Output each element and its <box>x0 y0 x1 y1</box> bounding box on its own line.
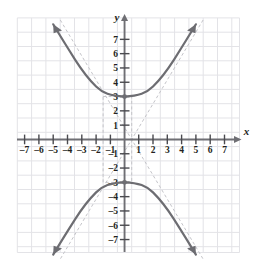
coordinate-plane-svg: –7 –6 –5 –4 –3 –2 –1 1 2 3 4 5 6 7 7 6 5… <box>0 0 260 262</box>
y-tick-label: 1 <box>113 121 118 131</box>
y-tick-label: –1 <box>108 149 119 159</box>
x-tick-label: –7 <box>19 145 30 155</box>
vertex-lower <box>122 180 127 185</box>
y-tick-label: 2 <box>113 106 118 116</box>
y-tick-label: 5 <box>113 63 118 73</box>
x-tick-label: 3 <box>165 145 170 155</box>
x-tick-label: 6 <box>208 145 213 155</box>
y-tick-label: –5 <box>108 206 119 216</box>
x-tick-label: 4 <box>179 145 184 155</box>
x-tick-label: –2 <box>90 145 101 155</box>
y-axis-label: y <box>113 11 120 23</box>
y-tick-label: 6 <box>113 49 118 59</box>
y-tick-label: –7 <box>108 235 119 245</box>
x-tick-label: –3 <box>76 145 87 155</box>
x-tick-label: –5 <box>47 145 58 155</box>
y-tick-label: –4 <box>108 192 119 202</box>
x-tick-label: –6 <box>33 145 44 155</box>
x-tick-label: 2 <box>151 145 156 155</box>
x-tick-label: 5 <box>194 145 199 155</box>
y-tick-label: –6 <box>108 221 119 231</box>
y-tick-label: –2 <box>108 163 119 173</box>
vertex-upper <box>122 94 127 99</box>
hyperbola-graph-figure: –7 –6 –5 –4 –3 –2 –1 1 2 3 4 5 6 7 7 6 5… <box>0 0 260 262</box>
y-tick-label: 7 <box>113 35 118 45</box>
x-tick-label: 7 <box>222 145 227 155</box>
x-tick-label: 1 <box>136 145 141 155</box>
x-tick-label: –4 <box>62 145 73 155</box>
y-tick-label: 4 <box>113 78 118 88</box>
figure-background <box>0 0 260 262</box>
x-axis-label: x <box>243 125 250 137</box>
